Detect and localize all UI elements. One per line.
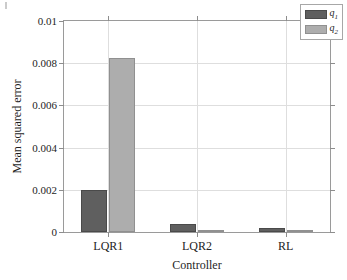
y-tick [59, 21, 64, 22]
y-tick-label: 0.006 [32, 100, 57, 111]
y-tick-right [330, 190, 335, 191]
y-tick-label: 0.01 [38, 16, 57, 27]
x-tick-label: LQR2 [182, 240, 212, 252]
bar-lqr2-q1 [170, 224, 196, 232]
bar-lqr1-q1 [81, 190, 107, 232]
y-axis-title: Mean squared error [9, 20, 25, 233]
chart-legend: q1 q2 [300, 4, 344, 40]
y-tick-right [330, 105, 335, 106]
y-tick-label: 0.008 [32, 58, 57, 69]
plot-area: 00.0020.0040.0060.0080.01LQR1LQR2RL [63, 20, 331, 233]
x-tick-top [197, 16, 198, 21]
bar-lqr1-q2 [109, 58, 135, 232]
legend-label-q1: q1 [330, 8, 339, 21]
legend-swatch-q2 [305, 25, 327, 34]
x-tick [108, 232, 109, 237]
legend-item-q2[interactable]: q2 [305, 23, 339, 36]
legend-label-q2: q2 [330, 23, 339, 36]
bar-chart-figure: Mean squared error 00.0020.0040.0060.008… [0, 0, 347, 280]
y-tick-label: 0.002 [32, 184, 57, 195]
x-tick [197, 232, 198, 237]
legend-item-q1[interactable]: q1 [305, 8, 339, 21]
bar-rl-q1 [259, 228, 285, 232]
bar-lqr2-q2 [198, 230, 224, 232]
y-tick-right [330, 232, 335, 233]
y-tick [59, 190, 64, 191]
x-tick-label: RL [278, 240, 293, 252]
y-tick-right [330, 63, 335, 64]
x-tick-top [108, 16, 109, 21]
gridline-vertical [286, 21, 287, 232]
gridline-vertical [197, 21, 198, 232]
y-tick [59, 63, 64, 64]
y-tick [59, 232, 64, 233]
x-axis-title: Controller [63, 258, 331, 272]
bar-rl-q2 [287, 230, 313, 232]
x-tick-label: LQR1 [93, 240, 123, 252]
y-tick-right [330, 148, 335, 149]
y-tick-label: 0 [52, 227, 58, 238]
y-tick [59, 148, 64, 149]
legend-swatch-q1 [305, 10, 327, 19]
y-tick-label: 0.004 [32, 142, 57, 153]
y-tick [59, 105, 64, 106]
x-tick [286, 232, 287, 237]
x-tick-top [286, 16, 287, 21]
